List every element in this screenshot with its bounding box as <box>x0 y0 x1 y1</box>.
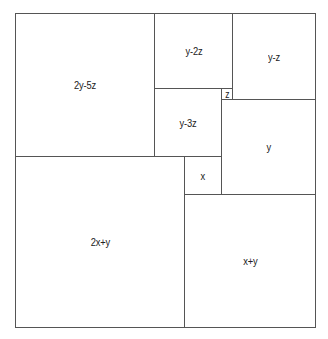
square-label: 2y-5z <box>74 79 96 91</box>
square-x: x <box>184 156 222 195</box>
square-label: x <box>201 170 206 182</box>
square-label: y <box>266 141 271 153</box>
square-label: y-z <box>268 51 280 63</box>
square-2x-plus-y: 2x+y <box>15 156 185 328</box>
square-2y-5z: 2y-5z <box>15 13 155 157</box>
diagram-canvas: 2y-5z y-2z y-z y-3z z y x 2x+y x+y <box>0 0 328 339</box>
square-y-3z: y-3z <box>154 88 222 157</box>
square-label: y-3z <box>179 117 196 129</box>
square-y: y <box>221 99 316 195</box>
square-label: z <box>225 89 229 100</box>
square-y-z: y-z <box>232 13 316 100</box>
square-y-2z: y-2z <box>154 13 233 89</box>
square-label: x+y <box>243 255 257 267</box>
square-label: 2x+y <box>90 236 109 248</box>
square-x-plus-y: x+y <box>184 194 316 328</box>
square-label: y-2z <box>185 45 202 57</box>
